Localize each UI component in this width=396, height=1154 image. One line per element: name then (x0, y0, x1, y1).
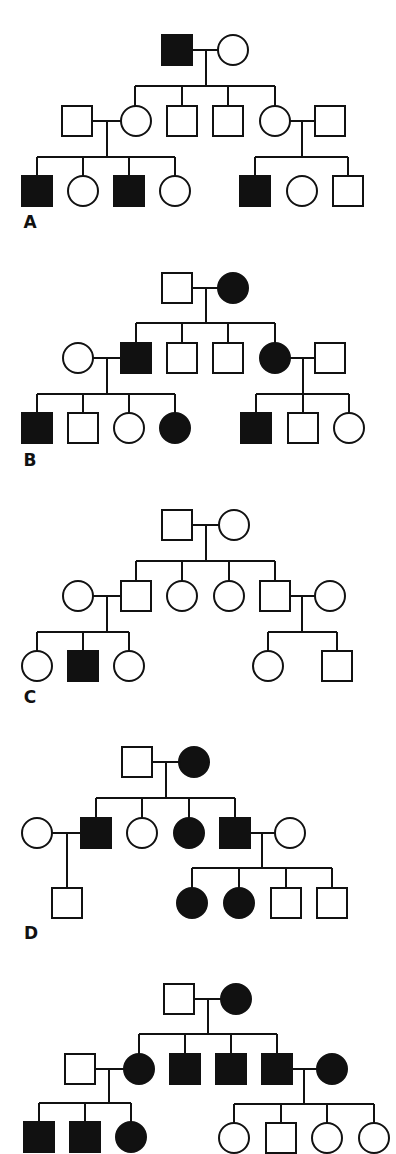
unaffected-female-circle-icon (253, 651, 283, 681)
pedigree-label: B (24, 450, 37, 470)
pedigree-c: C (22, 510, 352, 707)
affected-female-circle-icon (160, 413, 190, 443)
unaffected-male-square-icon (164, 984, 194, 1014)
unaffected-female-circle-icon (219, 510, 249, 540)
unaffected-male-square-icon (122, 747, 152, 777)
affected-male-square-icon (68, 651, 98, 681)
unaffected-female-circle-icon (114, 413, 144, 443)
unaffected-male-square-icon (68, 413, 98, 443)
affected-male-square-icon (22, 413, 52, 443)
affected-male-square-icon (220, 818, 250, 848)
unaffected-female-circle-icon (63, 343, 93, 373)
affected-female-circle-icon (317, 1054, 347, 1084)
pedigree-e (24, 984, 389, 1153)
unaffected-male-square-icon (167, 343, 197, 373)
affected-male-square-icon (170, 1054, 200, 1084)
affected-male-square-icon (114, 176, 144, 206)
unaffected-male-square-icon (162, 273, 192, 303)
unaffected-female-circle-icon (214, 581, 244, 611)
affected-female-circle-icon (177, 888, 207, 918)
affected-male-square-icon (81, 818, 111, 848)
unaffected-male-square-icon (162, 510, 192, 540)
unaffected-male-square-icon (167, 106, 197, 136)
unaffected-female-circle-icon (287, 176, 317, 206)
unaffected-female-circle-icon (219, 1123, 249, 1153)
unaffected-male-square-icon (121, 581, 151, 611)
unaffected-female-circle-icon (312, 1123, 342, 1153)
unaffected-female-circle-icon (359, 1123, 389, 1153)
unaffected-female-circle-icon (22, 651, 52, 681)
unaffected-female-circle-icon (315, 581, 345, 611)
affected-male-square-icon (162, 35, 192, 65)
unaffected-male-square-icon (322, 651, 352, 681)
unaffected-female-circle-icon (160, 176, 190, 206)
unaffected-female-circle-icon (127, 818, 157, 848)
affected-male-square-icon (70, 1122, 100, 1152)
affected-male-square-icon (262, 1054, 292, 1084)
unaffected-male-square-icon (288, 413, 318, 443)
unaffected-female-circle-icon (218, 35, 248, 65)
unaffected-male-square-icon (62, 106, 92, 136)
unaffected-female-circle-icon (68, 176, 98, 206)
unaffected-female-circle-icon (22, 818, 52, 848)
affected-male-square-icon (24, 1122, 54, 1152)
affected-male-square-icon (241, 413, 271, 443)
unaffected-male-square-icon (213, 106, 243, 136)
pedigree-label: D (24, 923, 38, 943)
unaffected-male-square-icon (213, 343, 243, 373)
unaffected-male-square-icon (271, 888, 301, 918)
affected-female-circle-icon (174, 818, 204, 848)
unaffected-female-circle-icon (275, 818, 305, 848)
unaffected-female-circle-icon (334, 413, 364, 443)
affected-female-circle-icon (218, 273, 248, 303)
pedigree-d: D (22, 747, 347, 943)
pedigree-label: A (23, 212, 37, 232)
unaffected-female-circle-icon (121, 106, 151, 136)
pedigree-label: C (24, 687, 36, 707)
unaffected-male-square-icon (317, 888, 347, 918)
affected-female-circle-icon (221, 984, 251, 1014)
unaffected-female-circle-icon (63, 581, 93, 611)
unaffected-male-square-icon (266, 1123, 296, 1153)
unaffected-female-circle-icon (114, 651, 144, 681)
affected-female-circle-icon (260, 343, 290, 373)
unaffected-male-square-icon (333, 176, 363, 206)
affected-male-square-icon (22, 176, 52, 206)
unaffected-male-square-icon (65, 1054, 95, 1084)
affected-female-circle-icon (179, 747, 209, 777)
unaffected-male-square-icon (315, 343, 345, 373)
affected-female-circle-icon (124, 1054, 154, 1084)
pedigree-b: B (22, 273, 364, 470)
unaffected-male-square-icon (260, 581, 290, 611)
affected-female-circle-icon (224, 888, 254, 918)
affected-male-square-icon (216, 1054, 246, 1084)
unaffected-male-square-icon (315, 106, 345, 136)
unaffected-female-circle-icon (167, 581, 197, 611)
affected-female-circle-icon (116, 1122, 146, 1152)
pedigree-figure: A B C D (0, 0, 396, 1154)
affected-male-square-icon (240, 176, 270, 206)
pedigree-a: A (22, 35, 363, 232)
unaffected-female-circle-icon (260, 106, 290, 136)
unaffected-male-square-icon (52, 888, 82, 918)
affected-male-square-icon (121, 343, 151, 373)
